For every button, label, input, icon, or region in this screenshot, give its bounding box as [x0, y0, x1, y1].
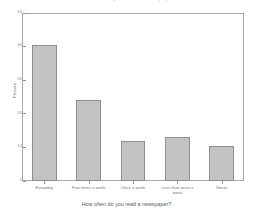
x-axis-tick-label: Once a week [113, 185, 154, 190]
x-axis-tick-label: Few times a week [68, 185, 109, 190]
x-tick-mark [222, 181, 223, 184]
bar[interactable] [165, 137, 190, 181]
bar-slot [209, 13, 234, 181]
bar-slot [165, 13, 190, 181]
bar[interactable] [209, 146, 234, 181]
bar-series [22, 13, 244, 181]
x-axis-tick-label: Everyday [24, 185, 65, 190]
x-tick-mark [44, 181, 45, 184]
x-axis-tick-label: Never [201, 185, 242, 190]
bar[interactable] [121, 141, 146, 181]
bar-chart-figure: How often do you read a newspaper? Perce… [0, 0, 253, 214]
bar-slot [76, 13, 101, 181]
x-axis-title: How often do you read a newspaper? [0, 201, 253, 207]
x-tick-mark [177, 181, 178, 184]
x-axis-tick-label: Less than once a week [157, 185, 198, 195]
chart-title: How often do you read a newspaper? [0, 0, 253, 1]
bar-slot [32, 13, 57, 181]
x-tick-mark [133, 181, 134, 184]
bar[interactable] [76, 100, 101, 181]
bar-slot [121, 13, 146, 181]
y-axis-title: Percent [12, 71, 17, 111]
bar[interactable] [32, 45, 57, 181]
x-tick-mark [89, 181, 90, 184]
